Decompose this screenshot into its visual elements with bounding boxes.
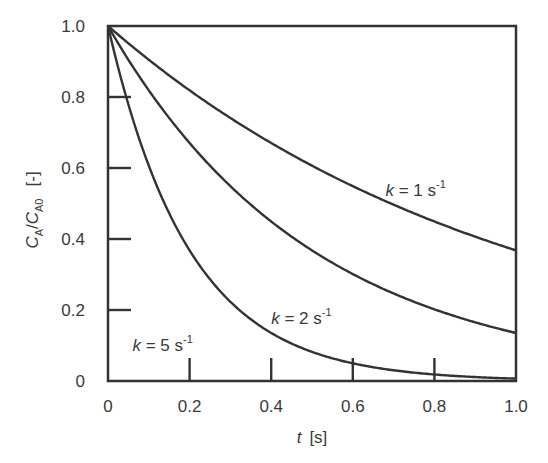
series-line-k2: [108, 26, 516, 333]
y-tick-label: 0.4: [61, 230, 85, 249]
decay-chart: 00.20.40.60.81.0 00.20.40.60.81.0 t[s] C…: [0, 0, 548, 463]
y-tick-labels: 00.20.40.60.81.0: [61, 17, 85, 391]
y-tick-label: 0: [76, 372, 85, 391]
curve-label: k = 2 s-1: [271, 306, 331, 328]
series-line-k1: [108, 26, 516, 250]
x-tick-label: 0.8: [423, 397, 447, 416]
x-tick-label: 0.4: [259, 397, 283, 416]
y-tick-label: 0.8: [61, 88, 85, 107]
y-label-sub-a0: A0: [33, 199, 45, 212]
y-tick-label: 0.6: [61, 159, 85, 178]
x-tick-label: 0.2: [178, 397, 202, 416]
curve-annotations: k = 1 s-1k = 2 s-1k = 5 s-1: [132, 178, 445, 354]
y-label-c: C: [23, 236, 42, 249]
y-tick-label: 0.2: [61, 301, 85, 320]
x-tick-label: 0: [103, 397, 112, 416]
y-axis-label: CA/CA0[-]: [23, 171, 45, 248]
y-label-unit: [-]: [23, 171, 42, 186]
curve-label: k = 1 s-1: [385, 178, 445, 200]
curve-label: k = 5 s-1: [132, 333, 192, 355]
x-tick-labels: 00.20.40.60.81.0: [103, 397, 528, 416]
y-label-c0: C: [23, 211, 42, 224]
y-tick-label: 1.0: [61, 17, 85, 36]
x-tick-label: 0.6: [341, 397, 365, 416]
x-tick-label: 1.0: [504, 397, 528, 416]
x-axis-var: t: [297, 428, 303, 447]
x-axis-label: t[s]: [297, 428, 328, 447]
x-axis-unit: [s]: [309, 428, 327, 447]
